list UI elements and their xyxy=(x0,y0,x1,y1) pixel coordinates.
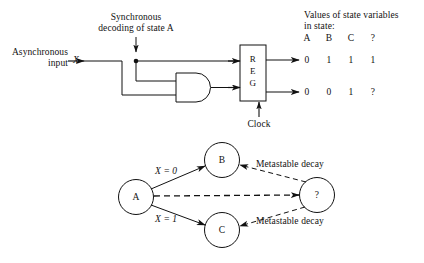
state-table-heading-line2: in state: xyxy=(304,21,335,32)
register-letter-g: G xyxy=(246,78,260,88)
state-table-heading-line1: Values of state variables xyxy=(304,10,399,21)
wire-junction-dot xyxy=(134,59,139,64)
clock-label: Clock xyxy=(239,119,279,130)
state-table-row0-col1: 1 xyxy=(322,55,336,66)
state-node-b-label: B xyxy=(212,155,232,166)
metastability-figure: Asynchronous input X Synchronous decodin… xyxy=(0,0,424,263)
x-input-wire xyxy=(84,61,176,95)
edge-a-to-q-metastable xyxy=(154,195,299,196)
state-table-row0-col0: 0 xyxy=(300,55,314,66)
state-table-row0-col2: 1 xyxy=(344,55,358,66)
top-circuit-wiring xyxy=(68,37,299,117)
state-table-row1-col1: 0 xyxy=(322,87,336,98)
register-letter-e: E xyxy=(246,66,260,76)
figure-vector-layer xyxy=(0,0,424,263)
state-node-c-label: C xyxy=(212,225,232,236)
edge-label-q-to-c-decay: Metastable decay xyxy=(256,216,324,227)
state-table-header-b: B xyxy=(322,33,336,44)
async-input-label-line2: input xyxy=(6,58,68,69)
and-gate-body xyxy=(176,73,211,102)
x-signal-label: X xyxy=(73,55,79,66)
decode-to-and-wire xyxy=(136,61,176,81)
state-table-header-q: ? xyxy=(366,33,380,44)
edge-label-a-to-b: X = 0 xyxy=(155,166,177,177)
edge-label-a-to-c: X = 1 xyxy=(155,214,177,225)
state-table-header-c: C xyxy=(344,33,358,44)
state-node-q-label: ? xyxy=(307,190,327,201)
sync-decoding-label-line2: decoding of state A xyxy=(76,23,196,34)
state-table-row0-col3: 1 xyxy=(366,55,380,66)
state-node-a-label: A xyxy=(126,192,146,203)
sync-decoding-label-line1: Synchronous xyxy=(76,12,196,23)
async-input-label-line1: Asynchronous xyxy=(6,47,68,58)
register-letter-r: R xyxy=(246,54,260,64)
state-table-row1-col0: 0 xyxy=(300,87,314,98)
state-table-row1-col2: 1 xyxy=(344,87,358,98)
state-table-header-a: A xyxy=(300,33,314,44)
edge-label-q-to-b-decay: Metastable decay xyxy=(256,159,324,170)
state-table-row1-col3: ? xyxy=(366,87,380,98)
